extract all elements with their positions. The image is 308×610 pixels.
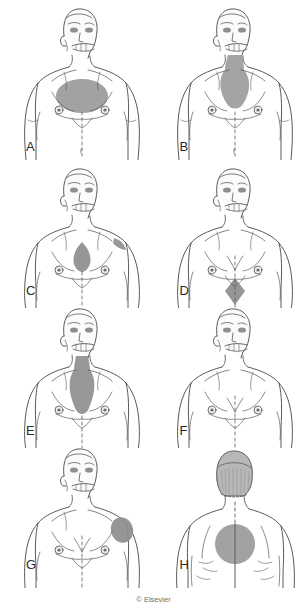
copyright-notice: © Elsevier xyxy=(0,595,307,604)
referred-pain-figure: A xyxy=(0,0,307,610)
panel-grid: A xyxy=(0,0,307,588)
panel-label-g: G xyxy=(26,557,37,572)
panel-e: E xyxy=(0,308,154,448)
panel-h: H xyxy=(154,448,308,588)
panel-a: A xyxy=(0,0,154,168)
panel-label-f: F xyxy=(180,423,188,438)
panel-c: C xyxy=(0,168,154,308)
panel-label-a: A xyxy=(26,139,35,154)
panel-label-d: D xyxy=(180,283,190,298)
panel-g: G xyxy=(0,448,154,588)
panel-label-b: B xyxy=(180,139,189,154)
panel-f: F xyxy=(154,308,308,448)
panel-label-c: C xyxy=(26,283,36,298)
panel-d: D xyxy=(154,168,308,308)
panel-label-h: H xyxy=(180,557,190,572)
panel-label-e: E xyxy=(26,423,35,438)
panel-b: B xyxy=(154,0,308,168)
